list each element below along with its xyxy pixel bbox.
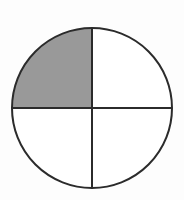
quadrant-upper-left-shaded [12, 28, 92, 108]
quadrant-lower-left [12, 108, 92, 188]
fraction-circle-diagram: A plain circle outlined in dark gray, sp… [0, 0, 184, 200]
circle-diagram-canvas [0, 0, 184, 200]
quadrant-lower-right [92, 108, 172, 188]
quadrant-upper-right [92, 28, 172, 108]
